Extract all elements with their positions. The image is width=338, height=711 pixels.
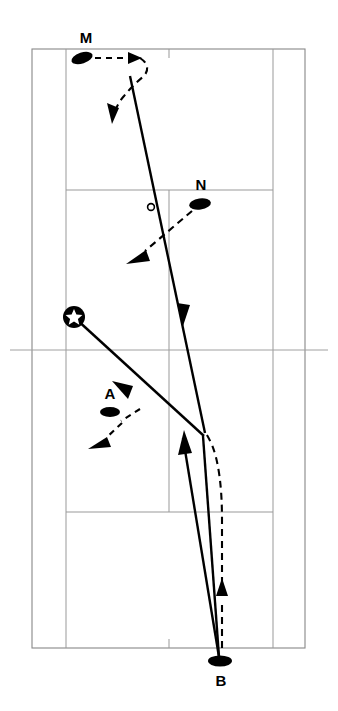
tennis-court-diagram: M N A B	[0, 0, 338, 711]
player-label-m: M	[80, 29, 93, 46]
player-marker-m	[70, 49, 94, 66]
server-marker	[63, 306, 85, 328]
movement-arrowhead-n	[126, 250, 150, 264]
ball-path-b-rising	[183, 438, 219, 657]
player-marker-a	[100, 407, 120, 417]
court-diagram-canvas: M N A B	[0, 0, 338, 711]
movement-path-m-hook	[114, 58, 147, 114]
player-markers-group	[70, 49, 232, 666]
court-lines-group	[10, 49, 328, 648]
ball-bounce-mark	[148, 204, 155, 211]
player-marker-b	[208, 656, 232, 667]
player-label-b: B	[216, 672, 227, 689]
movement-path-a-upper	[121, 409, 140, 421]
player-marker-n	[188, 197, 211, 211]
movement-path-a-lower	[106, 423, 122, 438]
player-label-a: A	[105, 385, 116, 402]
ball-path-arrowhead-up	[178, 430, 192, 455]
player-labels-group: M N A B	[80, 29, 227, 689]
player-label-n: N	[196, 176, 207, 193]
movement-arrowhead-m-right	[128, 52, 142, 64]
movement-arrowhead-a	[88, 437, 111, 449]
ball-path-b-to-apex	[203, 436, 219, 657]
ball-trajectories-group	[75, 76, 219, 657]
